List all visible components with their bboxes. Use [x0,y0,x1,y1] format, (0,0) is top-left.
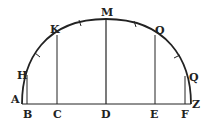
label-Z: Z [192,98,200,111]
label-K: K [50,23,60,36]
label-O: O [155,24,165,37]
label-H: H [17,69,27,82]
label-E: E [150,108,158,121]
label-C: C [53,108,62,121]
label-Q: Q [189,71,199,84]
label-D: D [101,108,111,121]
tick-mark-1 [35,53,40,57]
label-A: A [10,93,20,106]
label-M: M [101,6,113,19]
semi-ellipse-diagram: A B C D E F Z H K M O Q [0,0,209,127]
label-F: F [181,108,189,121]
label-B: B [23,108,32,121]
